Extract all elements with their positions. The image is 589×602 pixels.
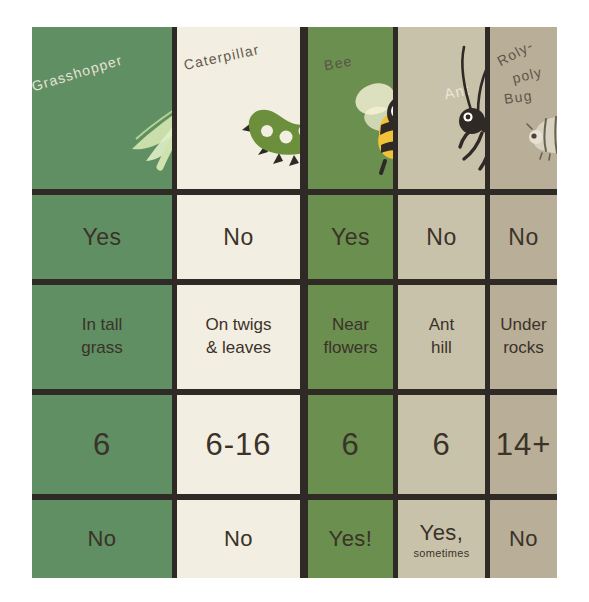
- cell-bee-jumps: Yes: [308, 195, 393, 279]
- column-caterpillar: Caterpillar: [177, 27, 300, 578]
- cell-ant-legs: 6: [398, 395, 485, 494]
- header-cell-rolypoly: Roly- poly Bug: [490, 27, 557, 189]
- cell-rolypoly-legs: 14+: [490, 395, 557, 494]
- cell-grasshopper-bites: No: [32, 500, 172, 578]
- cell-grasshopper-legs: 6: [32, 395, 172, 494]
- header-cell-ant: Ant: [398, 27, 485, 189]
- column-ant: Ant No Ant hill: [398, 27, 485, 578]
- header-cell-bee: Bee: [308, 27, 393, 189]
- grasshopper-illustration: [102, 27, 172, 189]
- column-rolypoly: Roly- poly Bug No: [490, 27, 557, 578]
- caterpillar-illustration: [239, 27, 301, 189]
- cell-grasshopper-jumps: Yes: [32, 195, 172, 279]
- cell-ant-jumps: No: [398, 195, 485, 279]
- cell-ant-bites-sub: sometimes: [414, 547, 470, 559]
- column-grasshopper: Grasshopper Yes In tall grass: [32, 27, 172, 578]
- bee-illustration: [351, 27, 394, 189]
- header-cell-grasshopper: Grasshopper: [32, 27, 172, 189]
- rolypoly-illustration: [524, 27, 558, 189]
- cell-grasshopper-habitat: In tall grass: [32, 285, 172, 389]
- cell-caterpillar-bites: No: [177, 500, 300, 578]
- cell-rolypoly-jumps: No: [490, 195, 557, 279]
- bug-comparison-chart: Grasshopper Yes In tall grass: [32, 27, 557, 578]
- cell-ant-habitat: Ant hill: [398, 285, 485, 389]
- cell-caterpillar-jumps: No: [177, 195, 300, 279]
- cell-bee-habitat: Near flowers: [308, 285, 393, 389]
- cell-ant-bites-main: Yes,: [419, 520, 463, 546]
- cell-ant-bites: Yes, sometimes: [398, 500, 485, 578]
- ant-illustration: [442, 27, 486, 189]
- cell-caterpillar-legs: 6-16: [177, 395, 300, 494]
- cell-bee-legs: 6: [308, 395, 393, 494]
- column-bee: Bee Yes: [308, 27, 393, 578]
- cell-rolypoly-bites: No: [490, 500, 557, 578]
- header-cell-caterpillar: Caterpillar: [177, 27, 300, 189]
- cell-rolypoly-habitat: Under rocks: [490, 285, 557, 389]
- cell-caterpillar-habitat: On twigs & leaves: [177, 285, 300, 389]
- bug-name-bee: Bee: [323, 53, 354, 74]
- cell-bee-bites: Yes!: [308, 500, 393, 578]
